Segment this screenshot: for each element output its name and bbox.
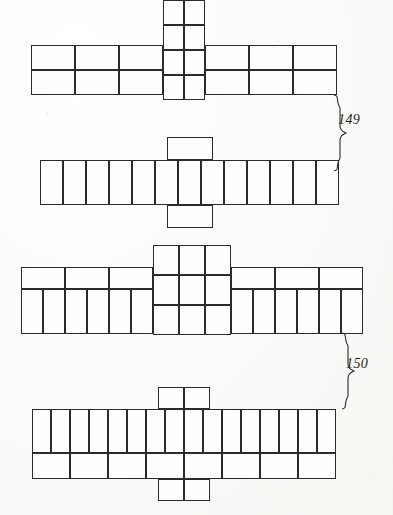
figure4-bottom-tab-cell xyxy=(158,479,184,501)
figure2-strip-cell xyxy=(224,160,247,205)
figure3-center-cell xyxy=(205,305,231,335)
figure1-right-wing-cell xyxy=(249,70,293,95)
figure3-left-bottom-cell xyxy=(109,289,131,334)
figure1-left-wing-cell xyxy=(119,70,163,95)
figure4-top-cell xyxy=(32,409,51,453)
figure1-center-cell xyxy=(163,0,184,25)
figure4-top-cell xyxy=(222,409,241,453)
figure2-strip-cell xyxy=(86,160,109,205)
figure1-right-wing-cell xyxy=(293,45,337,70)
figure4-bottom-cell xyxy=(146,453,184,479)
figure4-bottom-cell xyxy=(70,453,108,479)
figure3-left-top-cell xyxy=(109,267,153,289)
figure4-top-cell xyxy=(260,409,279,453)
figure3-right-bottom-cell xyxy=(297,289,319,334)
figure4-top-tab-cell xyxy=(158,387,184,409)
figure-net-150-lower xyxy=(0,375,393,515)
figure2-strip-cell xyxy=(155,160,178,205)
figure4-top-tab-cell xyxy=(184,387,210,409)
figure4-top-cell xyxy=(317,409,336,453)
figure2-strip-cell xyxy=(109,160,132,205)
figure1-center-cell xyxy=(163,25,184,50)
figure4-top-cell xyxy=(70,409,89,453)
figure3-right-bottom-cell xyxy=(319,289,341,334)
figure2-strip-cell xyxy=(270,160,293,205)
figure3-left-bottom-cell xyxy=(21,289,43,334)
figure4-top-cell xyxy=(203,409,222,453)
figure4-top-cell xyxy=(279,409,298,453)
figure2-strip-cell xyxy=(247,160,270,205)
figure3-center-cell xyxy=(205,275,231,305)
figure2-strip-cell xyxy=(293,160,316,205)
figure3-right-bottom-cell xyxy=(253,289,275,334)
figure2-strip-cell xyxy=(178,160,201,205)
figure3-right-top-cell xyxy=(319,267,363,289)
figure1-center-cell xyxy=(163,50,184,75)
figure3-center-cell xyxy=(179,275,205,305)
figure3-left-top-cell xyxy=(21,267,65,289)
figure3-left-bottom-cell xyxy=(43,289,65,334)
figure4-top-cell xyxy=(89,409,108,453)
figure4-bottom-cell xyxy=(222,453,260,479)
figure3-right-bottom-cell xyxy=(341,289,363,334)
figure3-left-bottom-cell xyxy=(87,289,109,334)
figure4-bottom-cell xyxy=(298,453,336,479)
figure3-center-cell xyxy=(153,245,179,275)
figure4-top-cell xyxy=(184,409,203,453)
figure3-left-bottom-cell xyxy=(65,289,87,334)
plate-page: 149 150 xyxy=(0,0,393,515)
figure-label-150: 150 xyxy=(346,356,368,372)
figure2-strip-cell xyxy=(201,160,224,205)
figure4-top-cell xyxy=(127,409,146,453)
figure4-top-cell xyxy=(51,409,70,453)
figure3-center-cell xyxy=(179,245,205,275)
figure-net-150-upper xyxy=(0,245,393,365)
figure3-center-cell xyxy=(179,305,205,335)
figure3-center-cell xyxy=(153,305,179,335)
figure3-right-bottom-cell xyxy=(275,289,297,334)
figure3-center-cell xyxy=(153,275,179,305)
figure1-left-wing-cell xyxy=(31,70,75,95)
figure3-right-top-cell xyxy=(231,267,275,289)
figure4-top-cell xyxy=(298,409,317,453)
figure2-bottom-tab xyxy=(167,205,213,228)
figure4-top-cell xyxy=(108,409,127,453)
figure1-right-wing-cell xyxy=(205,70,249,95)
figure4-top-cell xyxy=(165,409,184,453)
figure1-right-wing-cell xyxy=(293,70,337,95)
figure4-bottom-cell xyxy=(260,453,298,479)
figure1-right-wing-cell xyxy=(205,45,249,70)
figure1-left-wing-cell xyxy=(31,45,75,70)
figure1-right-wing-cell xyxy=(249,45,293,70)
figure2-top-tab xyxy=(167,137,213,160)
figure1-left-wing-cell xyxy=(75,45,119,70)
figure1-center-cell xyxy=(163,75,184,100)
figure1-center-cell xyxy=(184,75,205,100)
figure1-left-wing-cell xyxy=(119,45,163,70)
figure3-right-bottom-cell xyxy=(231,289,253,334)
figure3-right-top-cell xyxy=(275,267,319,289)
figure1-center-cell xyxy=(184,25,205,50)
figure1-center-cell xyxy=(184,0,205,25)
figure2-strip-cell xyxy=(63,160,86,205)
figure4-top-cell xyxy=(146,409,165,453)
figure4-bottom-cell xyxy=(184,453,222,479)
brace-149 xyxy=(332,94,350,172)
figure4-top-cell xyxy=(241,409,260,453)
figure2-strip-cell xyxy=(132,160,155,205)
figure4-bottom-cell xyxy=(32,453,70,479)
figure4-bottom-tab-cell xyxy=(184,479,210,501)
figure3-left-bottom-cell xyxy=(131,289,153,334)
figure-label-149: 149 xyxy=(338,112,360,128)
figure1-left-wing-cell xyxy=(75,70,119,95)
figure3-center-cell xyxy=(205,245,231,275)
figure1-center-cell xyxy=(184,50,205,75)
figure3-left-top-cell xyxy=(65,267,109,289)
figure2-strip-cell xyxy=(40,160,63,205)
figure4-bottom-cell xyxy=(108,453,146,479)
